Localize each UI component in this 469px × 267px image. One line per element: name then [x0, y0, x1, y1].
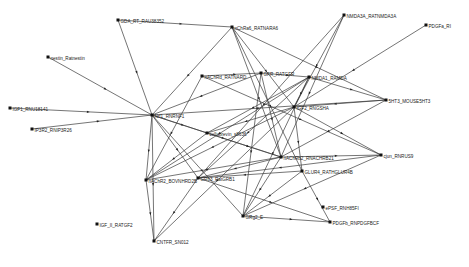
node-marker[interactable] — [260, 72, 263, 75]
graph-node[interactable]: nAChRd_RATNARD — [201, 75, 247, 80]
node-marker[interactable] — [280, 156, 283, 159]
node-marker[interactable] — [47, 56, 50, 59]
node-label: nestin_Ratnestin — [51, 56, 86, 61]
graph-node[interactable]: IGF1_RNU18141 — [9, 107, 49, 112]
graph-node[interactable]: PDGFb_RNPDGFBCF — [329, 221, 380, 226]
graph-node[interactable]: Nrf1_RNRNF1 — [151, 114, 185, 119]
node-marker[interactable] — [308, 76, 311, 79]
network-graph: GDA_RT_RAU38352nChRa6_RATNARA6NMDA3A_RAT… — [0, 0, 469, 267]
node-marker[interactable] — [343, 14, 346, 17]
arrow-head-icon — [335, 155, 338, 157]
graph-node[interactable]: GFR_RATGFR — [260, 72, 295, 77]
graph-edge — [198, 178, 330, 222]
graph-node[interactable]: IGF2_RNGSHA — [293, 106, 330, 111]
node-marker[interactable] — [9, 107, 12, 110]
node-marker[interactable] — [322, 206, 325, 209]
node-marker[interactable] — [301, 170, 304, 173]
node-label: GDA_RT_RAU38352 — [121, 19, 165, 24]
graph-node[interactable]: 5HT3_MOUSE5HT3 — [385, 99, 431, 104]
node-marker[interactable] — [206, 132, 209, 135]
node-label: CNTFR_SN012 — [157, 240, 190, 245]
node-marker[interactable] — [242, 215, 245, 218]
edge-line — [243, 73, 261, 216]
graph-edge — [232, 27, 294, 107]
node-marker[interactable] — [425, 24, 428, 27]
arrow-head-icon — [290, 218, 293, 220]
edge-line — [281, 15, 344, 157]
arrow-head-icon — [87, 111, 90, 113]
graph-edge — [152, 27, 232, 115]
edge-line — [146, 133, 207, 180]
graph-edge — [294, 107, 381, 155]
node-marker[interactable] — [201, 75, 204, 78]
graph-node[interactable]: GLUR4_RATHGLUR4B — [301, 170, 353, 175]
graph-edge — [243, 73, 261, 216]
arrow-head-icon — [340, 132, 344, 135]
graph-edge — [118, 20, 152, 115]
arrow-head-icon — [250, 150, 253, 153]
arrow-head-icon — [303, 187, 306, 190]
edge-layer — [10, 15, 426, 241]
graph-node[interactable]: GDA_RT_RAU38352 — [117, 19, 165, 24]
node-label: nAChRd_RATNARD — [205, 75, 247, 80]
node-marker[interactable] — [197, 177, 200, 180]
node-label: NMDA3A_RATNMDA3A — [347, 14, 398, 19]
arrow-head-icon — [199, 95, 202, 98]
node-layer: GDA_RT_RAU38352nChRa6_RATNARA6NMDA3A_RAT… — [9, 14, 451, 245]
graph-node[interactable]: IP3R2_RNIP3R26 — [31, 128, 73, 133]
node-label: ePSF_RNH85FI — [326, 206, 359, 211]
graph-node[interactable]: GRb3_RatGRB1 — [197, 177, 236, 182]
graph-edge — [243, 155, 381, 216]
arrow-head-icon — [135, 71, 138, 74]
arrow-head-icon — [308, 92, 311, 95]
graph-edge — [146, 133, 207, 180]
node-marker[interactable] — [385, 99, 388, 102]
graph-node[interactable]: nChRa6_RATNARA6 — [231, 26, 279, 31]
arrow-head-icon — [179, 23, 182, 25]
graph-node[interactable]: PDGFa_RI — [425, 24, 451, 29]
node-marker[interactable] — [151, 114, 154, 117]
graph-edge — [154, 107, 294, 241]
graph-node[interactable]: cellubrevin_s8636 — [206, 132, 247, 137]
node-marker[interactable] — [329, 221, 332, 224]
graph-edge — [152, 115, 198, 178]
arrow-head-icon — [251, 106, 255, 109]
edge-line — [198, 77, 309, 178]
graph-node[interactable]: CNTFR_SN012 — [153, 240, 190, 245]
edge-line — [152, 27, 232, 115]
graph-node[interactable]: IGF_II_RATGF2 — [96, 223, 134, 228]
node-marker[interactable] — [153, 240, 156, 243]
node-label: Nrf1_RNRNF1 — [155, 114, 185, 119]
node-label: cjun_RNRUS9 — [384, 154, 414, 159]
graph-node[interactable]: nestin_Ratnestin — [47, 56, 86, 61]
arrow-head-icon — [256, 107, 259, 109]
edge-line — [146, 180, 154, 241]
graph-edge — [294, 107, 302, 171]
node-label: IGF_II_RATGF2 — [100, 223, 134, 228]
node-marker[interactable] — [145, 179, 148, 182]
graph-edge — [48, 57, 152, 115]
node-marker[interactable] — [31, 128, 34, 131]
arrow-head-icon — [243, 174, 246, 176]
graph-node[interactable]: GRg2_E — [242, 215, 264, 220]
arrow-head-icon — [299, 118, 302, 121]
graph-node[interactable]: nAChR2_BOVNHRD2B — [145, 179, 198, 184]
arrow-head-icon — [316, 197, 319, 201]
graph-edge — [154, 178, 198, 241]
graph-node[interactable]: NMDA1_RAMDA — [308, 76, 348, 81]
arrow-head-icon — [152, 183, 154, 186]
graph-node[interactable]: cjun_RNRUS9 — [380, 154, 414, 159]
edge-line — [232, 27, 294, 107]
node-marker[interactable] — [117, 19, 120, 22]
edge-line — [243, 157, 281, 216]
graph-node[interactable]: nAChRb2_RNACHRB21 — [280, 156, 335, 161]
graph-edge — [146, 180, 154, 241]
graph-node[interactable]: ePSF_RNH85FI — [322, 206, 359, 211]
node-marker[interactable] — [96, 223, 99, 226]
node-marker[interactable] — [231, 26, 234, 29]
edge-line — [118, 20, 152, 115]
node-label: 5HT3_MOUSE5HT3 — [389, 99, 431, 104]
graph-node[interactable]: NMDA3A_RATNMDA3A — [343, 14, 398, 19]
node-marker[interactable] — [293, 106, 296, 109]
node-marker[interactable] — [380, 154, 383, 157]
